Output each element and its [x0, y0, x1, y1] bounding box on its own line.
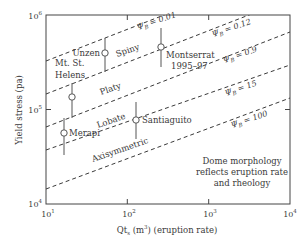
- ytick-label-1e5: 105: [28, 104, 42, 115]
- ytick-label-1e4: 104: [28, 198, 42, 209]
- x-axis-label: Qts (m3) (eruption rate): [117, 224, 217, 236]
- label-msh-1: Mt. St.: [55, 58, 84, 68]
- label-montserrat-2: 1995–97: [171, 61, 208, 71]
- point-mt-st-helens: [69, 83, 75, 118]
- xtick-label-1e4: 104: [283, 208, 297, 219]
- point-montserrat: [158, 28, 164, 67]
- label-unzen: Unzen: [72, 48, 100, 58]
- psi-label-0.9: ΨB = 0.9: [222, 45, 259, 66]
- note-line-1: Dome morphology: [202, 156, 281, 166]
- label-merapi: Merapi: [69, 128, 100, 138]
- region-label-spiny: Spiny: [114, 41, 140, 58]
- ytick-label-1e6: 106: [28, 10, 42, 21]
- point-santiaguito: [133, 102, 139, 139]
- region-label-lobate: Lobate: [95, 111, 126, 130]
- y-axis-label: Yield stress (pa): [14, 75, 24, 146]
- label-montserrat-1: Montserrat: [166, 50, 215, 60]
- region-label-axisymmetric: Axisymmetric: [89, 135, 149, 164]
- xtick-label-1e1: 101: [41, 208, 55, 219]
- xtick-label-1e3: 103: [203, 208, 217, 219]
- point-merapi: [61, 118, 67, 155]
- xtick-label-1e2: 102: [122, 208, 136, 219]
- psi-label-0.01: ΨB = 0.01: [136, 10, 178, 33]
- note-line-3: and rheology: [214, 178, 271, 188]
- yield-stress-chart: ΨB = 0.01 ΨB = 0.12 ΨB = 0.9 ΨB = 15 ΨB …: [0, 0, 307, 242]
- psi-label-100: ΨB = 100: [230, 109, 269, 131]
- label-msh-2: Helens: [55, 70, 85, 80]
- region-label-platy: Platy: [98, 80, 122, 97]
- psi-label-0.12: ΨB = 0.12: [211, 17, 253, 40]
- point-unzen: [102, 38, 108, 72]
- label-santiaguito: Santiaguito: [142, 115, 192, 125]
- note-line-2: reflects eruption rate: [196, 167, 288, 177]
